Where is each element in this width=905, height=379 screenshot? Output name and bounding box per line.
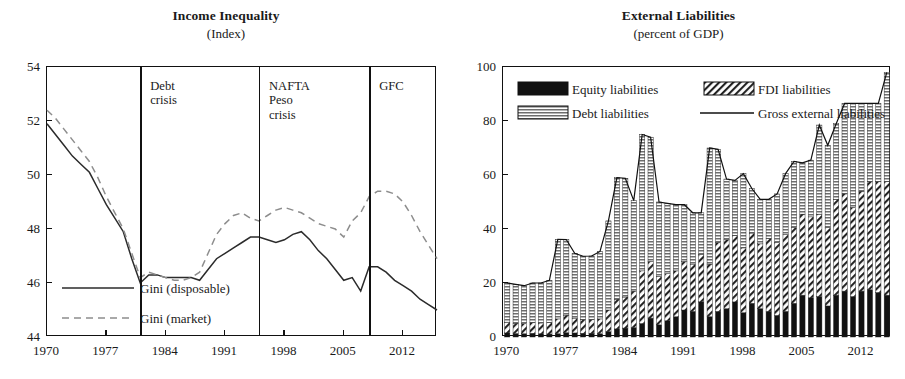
bar-segment (631, 291, 636, 327)
bar-segment (817, 297, 822, 338)
bar-segment (648, 318, 653, 337)
left-ytick-mark (46, 282, 52, 283)
right-ytick-20: 20 (452, 276, 496, 289)
right-ytick-100: 100 (452, 60, 496, 73)
bar-segment (581, 320, 586, 334)
bar-segment (572, 253, 577, 318)
bar-segment (859, 291, 864, 337)
left-xtick-1991: 1991 (194, 344, 254, 357)
bar-segment (808, 217, 813, 298)
event-label-gfc: GFC (379, 79, 404, 93)
bar-segment (640, 271, 645, 324)
bar-segment (766, 199, 771, 238)
bar-segment (513, 323, 518, 333)
bar-segment (715, 311, 720, 337)
bar-segment (673, 317, 678, 337)
legend-label-gini-disposable: Gini (disposable) (140, 282, 230, 295)
bar-segment (800, 163, 805, 214)
left-xtick-mark (105, 330, 106, 336)
bar-segment (834, 295, 839, 337)
bar-segment (867, 290, 872, 337)
bar-segment (808, 160, 813, 217)
bar-segment (547, 323, 552, 334)
bar-segment (724, 179, 729, 240)
right-ytick-80: 80 (452, 114, 496, 127)
left-ytick-mark (46, 174, 52, 175)
bar-segment (614, 299, 619, 329)
bar-segment (521, 324, 526, 334)
bar-segment (732, 236, 737, 302)
legend-label-gross-external-liabilities: Gross external liabilities (758, 107, 885, 120)
bar-segment (850, 297, 855, 338)
right-xtick-2005: 2005 (771, 344, 831, 357)
bar-segment (538, 323, 543, 334)
bar-segment (606, 221, 611, 310)
bar-segment (766, 311, 771, 337)
right-xtick-2012: 2012 (830, 344, 890, 357)
left-xtick-mark (283, 330, 284, 336)
bar-segment (884, 72, 889, 181)
bar-segment (521, 334, 526, 337)
left-chart-title: Income Inequality (0, 8, 452, 24)
legend-swatch-fdi-liabilities (704, 82, 754, 95)
left-xtick-1984: 1984 (135, 344, 195, 357)
left-ytick-mark (46, 120, 52, 121)
bar-segment (859, 191, 864, 291)
bar-segment (884, 295, 889, 337)
bar-segment (690, 264, 695, 311)
bar-segment (775, 194, 780, 243)
bar-segment (581, 333, 586, 337)
event-line-nafta-peso-crisis (259, 67, 260, 335)
bar-segment (673, 271, 678, 317)
chart-panel-income-inequality: Income Inequality (Index) Debt crisis NA… (0, 0, 452, 379)
right-ytick-0: 0 (452, 330, 496, 343)
legend-label-equity-liabilities: Equity liabilities (572, 83, 658, 96)
bar-segment (606, 310, 611, 332)
bar-segment (564, 333, 569, 337)
bar-segment (665, 274, 670, 321)
bar-segment (741, 174, 746, 248)
right-xtick-1970: 1970 (476, 344, 536, 357)
bar-segment (640, 135, 645, 271)
left-ytick-46: 46 (0, 276, 40, 289)
bar-segment (758, 309, 763, 337)
bar-segment (825, 306, 830, 337)
left-xtick-1977: 1977 (75, 344, 135, 357)
left-xtick-mark (343, 330, 344, 336)
bar-segment (884, 182, 889, 295)
left-ytick-52: 52 (0, 114, 40, 127)
bar-segment (564, 240, 569, 316)
bar-segment (834, 199, 839, 295)
right-ytick-mark (502, 282, 508, 283)
bar-segment (572, 333, 577, 337)
bar-segment (555, 239, 560, 319)
bar-segment (682, 261, 687, 310)
bar-segment (656, 325, 661, 337)
bar-segment (707, 317, 712, 337)
bar-segment (783, 234, 788, 311)
bar-segment (690, 311, 695, 337)
bar-segment (547, 280, 552, 322)
bar-segment (724, 309, 729, 337)
bar-segment (766, 238, 771, 311)
bar-segment (800, 214, 805, 295)
right-chart-subtitle: (percent of GDP) (452, 26, 905, 42)
left-xtick-mark (224, 330, 225, 336)
left-xtick-mark (165, 330, 166, 336)
event-line-gfc (369, 67, 370, 335)
bar-segment (715, 149, 720, 242)
bar-segment (834, 124, 839, 200)
left-xtick-2012: 2012 (372, 344, 432, 357)
bar-segment (564, 315, 569, 333)
event-label-nafta-peso-crisis: NAFTA Peso crisis (269, 79, 310, 122)
bar-segment (724, 240, 729, 309)
bar-segment (867, 182, 872, 290)
bar-segment (791, 303, 796, 337)
bar-segment (530, 283, 535, 323)
bar-segment (817, 214, 822, 296)
bar-segment (800, 295, 805, 337)
left-ytick-44: 44 (0, 330, 40, 343)
bar-segment (808, 298, 813, 337)
bar-segment (791, 228, 796, 304)
bar-segment (589, 333, 594, 337)
